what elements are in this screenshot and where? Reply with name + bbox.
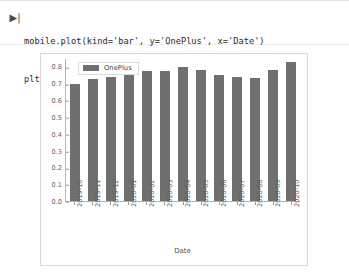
notebook-code-cell[interactable]: ▶| mobile.plot(kind='bar', y='OnePlus', … [0, 0, 349, 45]
y-axis-tick-label: 0.4 [52, 131, 67, 138]
chart-figure: 0.00.10.20.30.40.50.60.70.8 OnePlus 2019… [40, 53, 308, 266]
x-axis-tick-label: 2020-10 [294, 179, 301, 207]
y-axis-tick-label: 0.7 [52, 81, 67, 88]
legend-swatch-oneplus [83, 65, 99, 71]
y-axis-tick-label: 0.0 [52, 199, 67, 206]
y-axis-tick-label: 0.3 [52, 148, 67, 155]
run-cell-icon[interactable]: ▶| [8, 12, 22, 24]
x-axis-title: Date [65, 247, 300, 255]
y-axis-tick-label: 0.2 [52, 165, 67, 172]
legend-label-oneplus: OnePlus [104, 65, 132, 72]
y-axis-tick-label: 0.5 [52, 115, 67, 122]
y-axis-tick-label: 0.1 [52, 182, 67, 189]
code-line: mobile.plot(kind='bar', y='OnePlus', x='… [24, 35, 340, 48]
chart-legend: OnePlus [78, 62, 139, 75]
y-axis-tick-label: 0.6 [52, 98, 67, 105]
y-axis-tick-label: 0.8 [52, 64, 67, 71]
